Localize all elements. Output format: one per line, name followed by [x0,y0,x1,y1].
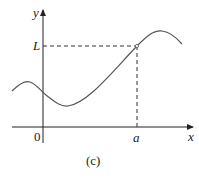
y-mark-label: L [33,39,40,52]
figure-caption: (c) [86,154,100,167]
graph [0,0,199,178]
y-axis-label: y [33,6,39,19]
x-axis-label: x [188,130,194,143]
origin-label: 0 [34,130,41,143]
point-a-L [135,44,138,47]
x-mark-label: a [133,131,140,144]
